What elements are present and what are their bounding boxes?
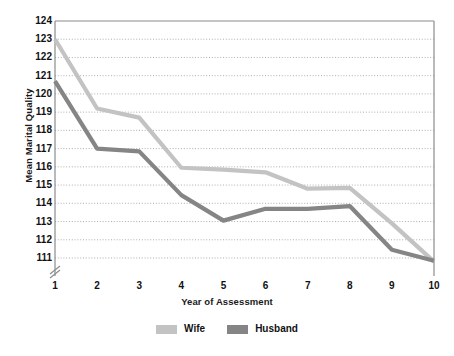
x-tick-label: 9	[377, 281, 407, 291]
legend-label: Wife	[184, 324, 205, 334]
legend-item-wife[interactable]: Wife	[156, 324, 205, 334]
legend-swatch-icon	[156, 325, 177, 334]
x-tick-label: 3	[124, 281, 154, 291]
x-tick-label: 8	[335, 281, 365, 291]
x-tick-label: 6	[251, 281, 281, 291]
x-tick-label: 1	[40, 281, 70, 291]
x-tick-label: 7	[293, 281, 323, 291]
legend-label: Husband	[255, 324, 298, 334]
x-tick-label: 10	[419, 281, 449, 291]
chart-legend: WifeHusband	[0, 324, 454, 334]
x-tick-label: 2	[82, 281, 112, 291]
chart-container: Mean Marital Quality 1111121131141151161…	[0, 0, 454, 356]
legend-swatch-icon	[227, 325, 248, 334]
legend-item-husband[interactable]: Husband	[227, 324, 298, 334]
x-axis-title: Year of Assessment	[0, 296, 454, 307]
x-tick-label: 5	[208, 281, 238, 291]
x-tick-label: 4	[166, 281, 196, 291]
